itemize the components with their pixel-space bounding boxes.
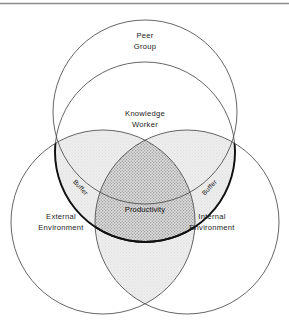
knowledge-worker-label-line2: Worker: [132, 120, 158, 129]
diagram-canvas: Peer Group Knowledge Worker External Env…: [0, 0, 289, 322]
external-environment-label-line1: External: [46, 212, 76, 221]
peer-group-label-line1: Peer: [136, 31, 153, 40]
productivity-label: Productivity: [125, 205, 166, 214]
venn-diagram-figure: Peer Group Knowledge Worker External Env…: [0, 0, 289, 322]
external-environment-label-line2: Environment: [38, 223, 84, 232]
knowledge-worker-label-line1: Knowledge: [125, 109, 165, 118]
internal-environment-label-line2: Environment: [189, 223, 235, 232]
internal-environment-label-line1: Internal: [198, 212, 225, 221]
peer-group-label-line2: Group: [134, 42, 156, 51]
